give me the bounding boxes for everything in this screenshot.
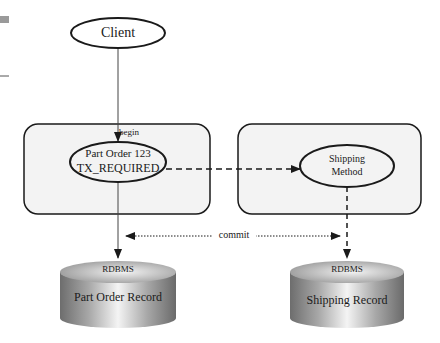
part-order-label-line2: TX_REQUIRED bbox=[73, 161, 163, 176]
begin-label: begin bbox=[119, 127, 139, 137]
left-db-body-label: Part Order Record bbox=[60, 290, 176, 305]
left-db-top-label: RDBMS bbox=[88, 264, 148, 274]
part-order-label-line1: Part Order 123 bbox=[73, 147, 163, 159]
margin-mark bbox=[0, 16, 9, 23]
shipping-label-line1: Shipping bbox=[307, 153, 387, 164]
shipping-label-line2: Method bbox=[307, 166, 387, 177]
right-db-top-label: RDBMS bbox=[317, 264, 377, 274]
client-label: Client bbox=[78, 25, 158, 41]
commit-label: commit bbox=[212, 229, 256, 240]
right-db-body-label: Shipping Record bbox=[290, 293, 404, 308]
